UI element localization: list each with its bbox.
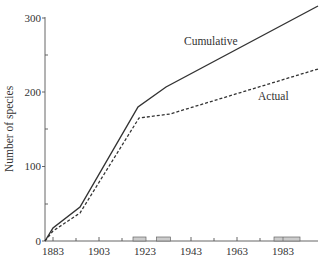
period-marker xyxy=(274,237,300,241)
cumulative-label: Cumulative xyxy=(184,35,238,47)
period-marker xyxy=(157,237,171,241)
actual-label: Actual xyxy=(258,90,289,102)
y-tick-label: 300 xyxy=(25,12,42,24)
species-chart: Cumulative Actual 0 100 200 300 1883 190… xyxy=(0,0,323,262)
period-markers xyxy=(133,237,300,241)
period-marker xyxy=(133,237,146,241)
x-tick-label: 1983 xyxy=(272,245,295,257)
y-tick-label: 200 xyxy=(25,86,42,98)
cumulative-line xyxy=(45,6,318,241)
y-axis-title: Number of species xyxy=(3,85,16,172)
x-tick-label: 1883 xyxy=(42,245,65,257)
x-tick-label: 1963 xyxy=(226,245,249,257)
y-axis xyxy=(42,17,48,241)
x-tick-label: 1923 xyxy=(134,245,157,257)
x-tick-label: 1903 xyxy=(88,245,111,257)
y-tick-label: 0 xyxy=(36,235,42,247)
y-tick-label: 100 xyxy=(25,160,42,172)
x-tick-label: 1943 xyxy=(180,245,203,257)
